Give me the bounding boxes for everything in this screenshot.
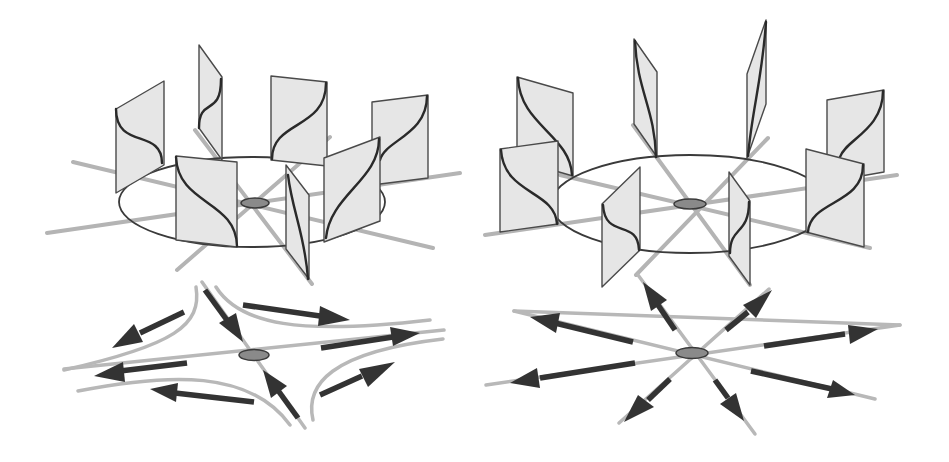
arrow [320, 362, 395, 395]
left-back-panels [116, 45, 428, 193]
diagram-canvas [0, 0, 949, 462]
panel [806, 149, 864, 247]
arrow [112, 312, 184, 348]
arrow [263, 370, 298, 418]
arrow [150, 383, 254, 402]
arrow [243, 305, 350, 326]
panel [500, 141, 558, 232]
panel [634, 39, 657, 157]
arrow [726, 290, 772, 330]
arrow [510, 363, 635, 388]
arrow [751, 371, 855, 398]
arrow [530, 313, 633, 342]
arrow [624, 379, 670, 422]
panel [286, 165, 309, 279]
panel [116, 81, 164, 193]
left-saddle-flow [64, 282, 444, 428]
panel [747, 20, 766, 158]
arrow [715, 380, 744, 421]
panel [729, 172, 750, 285]
panel [324, 137, 380, 242]
right-critical-point [674, 199, 706, 209]
arrow [764, 325, 878, 346]
arrow [643, 282, 675, 330]
right-3d-source-diagram [485, 20, 897, 287]
right-front-panels [500, 141, 864, 287]
right-source-point [676, 348, 708, 359]
panel [271, 76, 327, 166]
left-3d-saddle-diagram [47, 45, 460, 284]
left-critical-point [241, 198, 269, 208]
left-saddle-point [239, 350, 269, 361]
panel [176, 156, 237, 247]
right-source-flow [486, 275, 900, 434]
